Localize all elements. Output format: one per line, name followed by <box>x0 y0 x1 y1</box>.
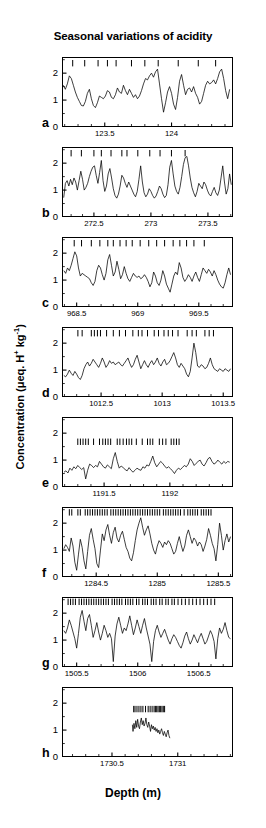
panel-b-ytick-2: 2 <box>46 158 58 168</box>
x-axis-label: Depth (m) <box>0 786 266 800</box>
panel-d-plot <box>62 327 233 397</box>
panel-g-xtick-0: 1505.5 <box>52 670 102 678</box>
panel-c-xtick-0: 968.5 <box>52 310 102 318</box>
panel-b-x-minor-ticks <box>71 213 231 218</box>
panel-a-plot <box>62 57 233 127</box>
panel-b <box>62 147 233 217</box>
panel-d-ytick-2: 2 <box>46 338 58 348</box>
y-axis-label-text: Concentration (μeq. H <box>14 355 26 470</box>
panel-h <box>62 687 233 757</box>
panel-f-ytick-2: 2 <box>46 518 58 528</box>
panel-d-x-minor-ticks <box>64 393 223 398</box>
panel-c-xtick-1: 969 <box>113 310 163 318</box>
panel-c-x-minor-ticks <box>64 303 223 308</box>
panel-h-xtick-0: 1730.5 <box>87 760 137 768</box>
panel-g-xtick-2: 1506.5 <box>174 670 224 678</box>
panel-g-ytick-2: 2 <box>46 608 58 618</box>
panel-c-plot <box>62 237 233 307</box>
panel-b-xtick-1: 273 <box>126 220 176 228</box>
panel-e-annual-markers <box>78 439 179 445</box>
panel-e-xtick-0: 1191.5 <box>79 490 129 498</box>
panel-d-y-ticks <box>62 330 67 397</box>
panel-h-ytick-0: 0 <box>46 752 58 762</box>
panel-e-ytick-2: 2 <box>46 428 58 438</box>
panel-d-xtick-2: 1013.5 <box>198 400 248 408</box>
panel-h-ytick-2: 2 <box>46 698 58 708</box>
panel-d-ytick-0: 0 <box>46 392 58 402</box>
panel-e <box>62 417 233 487</box>
panel-e-xtick-1: 1192 <box>145 490 195 498</box>
y-axis-label-suffix: ) <box>14 324 26 328</box>
panel-c-xtick-2: 969.5 <box>174 310 224 318</box>
panel-f-xtick-1: 1285 <box>132 580 182 588</box>
panel-d-data-trace <box>64 343 231 379</box>
panel-h-data-trace <box>132 718 169 738</box>
panel-b-annual-markers <box>71 150 185 156</box>
panel-b-ytick-1: 1 <box>46 185 58 195</box>
panel-h-ytick-1: 1 <box>46 725 58 735</box>
panel-a-ytick-1: 1 <box>46 95 58 105</box>
panel-g <box>62 597 233 667</box>
y-axis-label: Concentration (μeq. H+ kg-1) <box>12 227 26 567</box>
panel-a-xtick-0: 123.5 <box>80 130 130 138</box>
panel-f-x-minor-ticks <box>72 573 231 578</box>
figure-title: Seasonal variations of acidity <box>0 30 266 42</box>
panel-f-annual-markers <box>69 509 211 515</box>
acidity-depth-figure: Seasonal variations of acidity Concentra… <box>0 0 266 828</box>
panel-f-data-trace <box>64 518 231 571</box>
panel-h-annual-markers <box>134 706 165 712</box>
panel-e-plot <box>62 417 233 487</box>
panel-a-xtick-1: 124 <box>147 130 197 138</box>
panel-a-y-ticks <box>62 60 67 127</box>
panel-g-ytick-1: 1 <box>46 635 58 645</box>
panel-d-xtick-0: 1012.5 <box>76 400 126 408</box>
panel-a-ytick-0: 0 <box>46 122 58 132</box>
panel-a-data-trace <box>63 69 229 112</box>
panel-h-xtick-1: 1731 <box>153 760 203 768</box>
panel-d-ytick-1: 1 <box>46 365 58 375</box>
panel-a-x-minor-ticks <box>65 123 225 128</box>
panel-f-y-ticks <box>62 510 67 577</box>
panel-e-y-ticks <box>62 420 67 487</box>
panel-f-ytick-0: 0 <box>46 572 58 582</box>
panel-f-ytick-1: 1 <box>46 545 58 555</box>
panel-e-data-trace <box>64 453 230 479</box>
panel-c-annual-markers <box>74 240 204 246</box>
panel-c-ytick-1: 1 <box>46 275 58 285</box>
panel-d-annual-markers <box>78 330 214 336</box>
panel-b-xtick-2: 273.5 <box>183 220 233 228</box>
panel-d-xtick-1: 1013 <box>137 400 187 408</box>
panel-h-x-minor-ticks <box>73 753 231 758</box>
panel-b-ytick-0: 0 <box>46 212 58 222</box>
panel-e-ytick-0: 0 <box>46 482 58 492</box>
panel-d <box>62 327 233 397</box>
panel-c-data-trace <box>64 252 231 292</box>
panel-a-ytick-2: 2 <box>46 68 58 78</box>
panel-f-xtick-2: 1285.5 <box>193 580 243 588</box>
panel-g-annual-markers <box>68 599 215 605</box>
panel-b-plot <box>62 147 233 217</box>
panel-a <box>62 57 233 127</box>
panel-g-data-trace <box>64 610 231 661</box>
panel-e-x-minor-ticks <box>65 483 223 488</box>
y-axis-label-mid: kg <box>14 334 26 350</box>
panel-c-ytick-2: 2 <box>46 248 58 258</box>
panel-e-ytick-1: 1 <box>46 455 58 465</box>
panel-h-y-ticks <box>62 690 67 757</box>
panel-h-plot <box>62 687 233 757</box>
panel-b-data-trace <box>64 156 232 198</box>
panel-g-plot <box>62 597 233 667</box>
y-axis-label-sup-plus: + <box>12 350 21 354</box>
panel-c <box>62 237 233 307</box>
panel-b-xtick-0: 272.5 <box>69 220 119 228</box>
panel-a-annual-markers <box>73 60 216 66</box>
y-axis-label-sup-exp: -1 <box>12 328 21 335</box>
panel-f <box>62 507 233 577</box>
panel-g-xtick-1: 1506 <box>113 670 163 678</box>
panel-g-x-minor-ticks <box>64 663 223 668</box>
panel-f-xtick-0: 1284.5 <box>71 580 121 588</box>
panel-f-plot <box>62 507 233 577</box>
